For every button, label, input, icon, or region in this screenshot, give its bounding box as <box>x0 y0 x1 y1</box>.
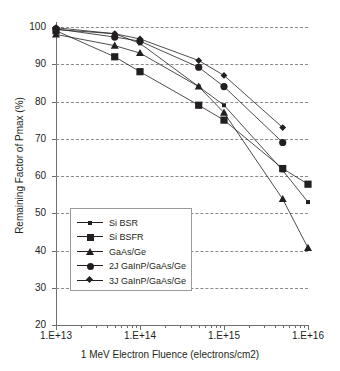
x-axis-line <box>56 325 309 326</box>
y-tick-label: 20 <box>20 320 46 330</box>
x-tick-minor <box>264 325 265 328</box>
x-tick-minor <box>216 325 217 328</box>
x-tick-minor <box>127 325 128 328</box>
x-tick-minor <box>107 325 108 328</box>
data-point <box>279 139 286 146</box>
y-axis-title: Remaining Factor of Pmax (%) <box>14 51 25 281</box>
x-tick-minor <box>199 325 200 328</box>
x-tick-minor <box>136 325 137 328</box>
legend-item[interactable]: GaAs/Ge <box>77 244 146 259</box>
legend-marker-small-square-icon <box>77 217 103 229</box>
x-tick-minor <box>300 325 301 328</box>
data-point <box>195 57 202 64</box>
x-tick-minor <box>295 325 296 328</box>
legend-item[interactable]: Si BSFR <box>77 230 144 245</box>
data-point <box>304 181 311 188</box>
data-point <box>279 195 287 202</box>
legend-label: Si BSFR <box>103 232 144 242</box>
series-line <box>56 31 308 184</box>
series-line <box>56 28 283 128</box>
x-tick-label: 1.E+16 <box>288 330 328 341</box>
data-point <box>195 82 203 89</box>
data-point <box>195 64 202 71</box>
legend-marker-large-square-icon <box>77 231 103 243</box>
chart-figure: 1009080706050403020 1.E+131.E+141.E+151.… <box>0 0 340 371</box>
data-point <box>136 68 143 75</box>
data-point <box>222 103 226 107</box>
legend-item[interactable]: 2J GaInP/GaAs/Ge <box>77 259 186 274</box>
x-tick-minor <box>283 325 284 328</box>
x-tick-minor <box>81 325 82 328</box>
legend-marker-circle-icon <box>77 260 103 272</box>
legend-label: Si BSR <box>103 218 138 228</box>
legend-label: 3J GaInP/GaAs/Ge <box>103 276 186 286</box>
x-tick-minor <box>249 325 250 328</box>
legend-label: 2J GaInP/GaAs/Ge <box>103 261 186 271</box>
x-tick-minor <box>165 325 166 328</box>
data-point <box>195 102 202 109</box>
legend-marker-diamond-icon <box>77 275 103 287</box>
data-point <box>304 244 312 251</box>
x-tick-minor <box>191 325 192 328</box>
legend-marker-triangle-icon <box>77 246 103 258</box>
y-tick-label: 30 <box>20 283 46 293</box>
x-tick-label: 1.E+15 <box>204 330 244 341</box>
x-axis-title: 1 MeV Electron Fluence (electrons/cm2) <box>0 349 340 360</box>
data-point <box>306 200 310 204</box>
x-tick-label: 1.E+14 <box>120 330 160 341</box>
x-tick-label: 1.E+13 <box>36 330 76 341</box>
x-tick-minor <box>115 325 116 328</box>
x-tick-minor <box>289 325 290 328</box>
series-line <box>56 30 308 202</box>
data-point <box>279 165 286 172</box>
x-tick-minor <box>121 325 122 328</box>
x-tick-minor <box>211 325 212 328</box>
x-tick-minor <box>220 325 221 328</box>
x-tick-minor <box>96 325 97 328</box>
legend-item[interactable]: 3J GaInP/GaAs/Ge <box>77 273 186 288</box>
legend: Si BSRSi BSFRGaAs/Ge2J GaInP/GaAs/Ge3J G… <box>70 208 192 291</box>
x-tick-minor <box>275 325 276 328</box>
x-tick-minor <box>304 325 305 328</box>
data-point <box>220 117 227 124</box>
x-tick-minor <box>205 325 206 328</box>
data-point <box>220 83 227 90</box>
y-tick-label: 100 <box>20 22 46 32</box>
data-point <box>111 53 118 60</box>
x-tick-minor <box>180 325 181 328</box>
legend-label: GaAs/Ge <box>103 247 146 257</box>
x-tick-minor <box>132 325 133 328</box>
legend-item[interactable]: Si BSR <box>77 215 138 230</box>
